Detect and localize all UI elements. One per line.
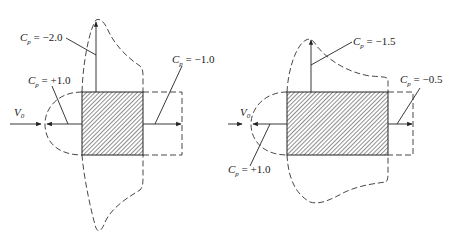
label-cp-back: Cp = −1.0 [172,53,215,68]
leader-front [52,86,68,124]
hatched-body [82,92,143,155]
right-panel: V0 Cp = −1.5 Cp = −0.5 Cp = +1.0 [228,35,443,203]
freestream-label: V0 [240,106,251,120]
top-pressure-envelope [287,39,388,92]
label-cp-top: Cp = −2.0 [20,31,63,46]
label-cp-front: Cp = +1.0 [228,163,271,178]
leader-top [311,42,352,65]
front-pressure-envelope [45,92,82,155]
bottom-pressure-envelope [82,155,143,231]
label-cp-front: Cp = +1.0 [28,74,71,89]
freestream-label: V0 [14,106,25,120]
top-pressure-envelope [82,19,143,92]
label-cp-top: Cp = −1.5 [353,35,396,50]
leader-front [250,124,270,166]
leader-top [66,38,96,55]
front-pressure-envelope [251,92,287,155]
pressure-distribution-diagram: V0 Cp = −2.0 Cp = +1.0 Cp = −1.0 V0 Cp =… [0,0,457,240]
hatched-body [287,92,388,155]
leader-back [397,88,420,124]
label-cp-back: Cp = −0.5 [400,73,443,88]
leader-back [155,66,182,124]
back-pressure-envelope [388,92,413,155]
bottom-pressure-envelope [287,155,388,203]
back-pressure-envelope [143,92,182,155]
left-panel: V0 Cp = −2.0 Cp = +1.0 Cp = −1.0 [10,19,215,230]
